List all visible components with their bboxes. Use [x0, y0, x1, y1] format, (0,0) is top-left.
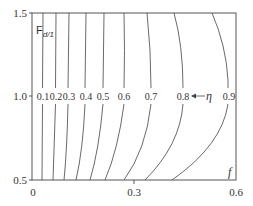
- contour-chart: 1.5 1.0 0.5 0 0.3 0.6 Fd/1 f: [0, 0, 253, 206]
- contour-0-1: [43, 13, 44, 88]
- contour-label: 0.1: [37, 91, 50, 102]
- contour-0-8: [174, 13, 183, 88]
- contour-label: 0.7: [145, 91, 158, 102]
- contour-0-8-lower: [145, 104, 183, 180]
- contour-0-6: [124, 13, 125, 88]
- arrow-left-icon: [191, 94, 196, 99]
- contour-0-1-lower: [42, 104, 43, 180]
- x-tick-label: 0.6: [229, 186, 243, 198]
- contour-label: 0.3: [63, 91, 76, 102]
- x-axis-label: f: [228, 165, 233, 179]
- contour-label: 0.5: [97, 91, 110, 102]
- contour-label: 0.8: [177, 91, 190, 102]
- contour-label: 0.9: [223, 91, 236, 102]
- y-tick-label: 1.5: [13, 7, 27, 19]
- contour-label: 0.4: [80, 91, 93, 102]
- contour-0-7: [147, 13, 151, 88]
- contour-0-6-lower: [105, 104, 124, 180]
- eta-label: η: [206, 89, 212, 103]
- y-tick-label: 0.5: [13, 174, 27, 186]
- x-tick-label: 0.3: [127, 186, 141, 198]
- contour-0-7-lower: [124, 104, 151, 180]
- contour-0-9-lower: [172, 104, 228, 180]
- contour-0-4: [85, 13, 86, 88]
- x-tick-label: 0: [30, 186, 36, 198]
- contour-0-2: [56, 13, 57, 88]
- contour-0-5: [103, 13, 104, 88]
- contour-label: 0.6: [118, 91, 131, 102]
- y-axis-label: Fd/1: [36, 24, 54, 39]
- contour-0-2-lower: [53, 104, 56, 180]
- y-tick-label: 1.0: [13, 90, 27, 102]
- contour-0-3-lower: [64, 104, 68, 180]
- contour-0-9: [212, 13, 228, 88]
- contour-label: 0.2: [50, 91, 63, 102]
- contour-0-4-lower: [76, 104, 85, 180]
- contour-0-3: [68, 13, 69, 88]
- contour-0-5-lower: [90, 104, 103, 180]
